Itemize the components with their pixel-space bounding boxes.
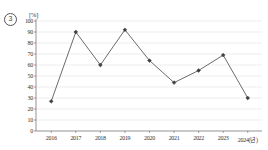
y-tick-label: 50	[17, 73, 33, 79]
x-tick-label: 2020	[144, 135, 155, 141]
x-tick-label: 2016	[46, 135, 57, 141]
chart-container: 3 [%] 0102030405060708090100 20162017201…	[0, 0, 268, 150]
x-tick-label: 2017	[70, 135, 81, 141]
y-tick-label: 90	[17, 29, 33, 35]
y-tick-label: 20	[17, 106, 33, 112]
x-tick-label: 2024(년)	[238, 135, 258, 144]
y-tick-label: 10	[17, 117, 33, 123]
gridlines-group	[36, 21, 262, 120]
y-tick-label: 30	[17, 95, 33, 101]
y-tick-label: 100	[17, 18, 33, 24]
data-line-series-1	[51, 30, 248, 102]
x-tick-label: 2021	[169, 135, 180, 141]
x-tick-label: 2019	[120, 135, 131, 141]
x-tick-label: 2022	[193, 135, 204, 141]
x-tick-label: 2023	[218, 135, 229, 141]
data-point-markers-group	[49, 28, 249, 103]
y-tick-label: 0	[17, 128, 33, 134]
line-chart-plot	[0, 0, 268, 150]
y-tick-label: 40	[17, 84, 33, 90]
axis-lines-group	[36, 19, 262, 131]
y-tick-label: 80	[17, 40, 33, 46]
x-tick-label: 2018	[95, 135, 106, 141]
y-tick-label: 60	[17, 62, 33, 68]
y-tick-label: 70	[17, 51, 33, 57]
